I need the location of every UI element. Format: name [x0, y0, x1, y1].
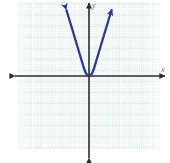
coordinate-plane-plot: [0, 0, 170, 163]
x-axis-label: x: [161, 66, 165, 74]
y-axis-label: y: [92, 2, 96, 10]
graph-screenshot: y x: [0, 0, 170, 163]
